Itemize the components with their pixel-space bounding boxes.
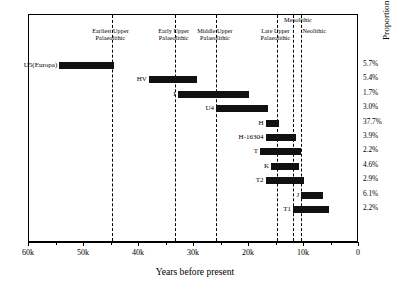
bar-row: HV [29,73,357,85]
x-tick-major [83,242,84,246]
bar-label: U5(Europa) [0,60,57,70]
bar-label: I [86,89,176,99]
bar-row: T [29,145,357,157]
bar-row: H [29,117,357,129]
x-tick-minor [111,242,112,245]
percent-label: 2.2% [363,145,378,154]
percent-label: 5.7% [363,59,378,68]
x-tick-major [138,242,139,246]
percent-label: 5.4% [363,73,378,82]
bar-label: T1 [201,204,291,214]
era-label-2: Middle Upper Palaeolithic [186,27,244,42]
x-tick-label: 60k [13,248,43,258]
percent-label: 37.7% [363,117,382,126]
bar-u5-europa- [59,62,114,69]
bar-label: H-16304 [174,132,264,142]
bars-layer: U5(Europa)HVIU4HH-16304TKT2JT1 [29,15,357,241]
x-tick-minor [276,242,277,245]
x-tick-label: 40k [123,248,153,258]
bar-t [260,148,301,155]
bar-label: K [179,161,269,171]
percent-label: 6.1% [363,189,378,198]
percent-label: 4.6% [363,160,378,169]
x-tick-label: 10k [288,248,318,258]
x-tick-major [248,242,249,246]
chart-container: U5(Europa)HVIU4HH-16304TKT2JT1 Earliest … [0,0,411,292]
bar-k [271,163,299,170]
era-label-5: Neolithic [294,27,334,34]
x-tick-label: 0 [343,248,373,258]
y-axis-title: Proportion of European lineages today [381,0,395,40]
x-tick-major [358,242,359,246]
x-tick-minor [221,242,222,245]
x-tick-major [193,242,194,246]
x-tick-label: 30k [178,248,208,258]
bar-row: J [29,189,357,201]
bar-u4 [216,105,268,112]
y-axis-title-text: Proportion of European lineages today [381,0,391,40]
bar-row: U5(Europa) [29,59,357,71]
bar-h [266,120,280,127]
bar-t2 [266,177,305,184]
x-tick-major [303,242,304,246]
bar-label: U4 [124,103,214,113]
bar-row: T1 [29,203,357,215]
bar-hv [149,76,197,83]
bar-row: U4 [29,102,357,114]
x-tick-minor [166,242,167,245]
bar-j [301,192,323,199]
bar-label: H [174,118,264,128]
bar-label: HV [57,74,147,84]
bar-row: K [29,160,357,172]
era-label-3: Late Upper Palaeolithic [252,27,300,42]
bar-i [178,91,250,98]
bar-t1 [293,206,329,213]
bar-label: J [209,190,299,200]
era-label-4: Mesolithic [276,16,320,23]
x-axis-title: Years before present [0,266,390,277]
percent-label: 2.9% [363,174,378,183]
percent-label: 3.9% [363,131,378,140]
x-tick-major [28,242,29,246]
bar-row: I [29,88,357,100]
x-tick-label: 50k [68,248,98,258]
percent-label: 3.0% [363,102,378,111]
bar-row: H-16304 [29,131,357,143]
era-label-0: Earliest Upper Palaeolithic [83,27,139,42]
percent-label: 1.7% [363,88,378,97]
bar-h-16304 [266,134,296,141]
x-tick-label: 20k [233,248,263,258]
plot-area: U5(Europa)HVIU4HH-16304TKT2JT1 [28,14,358,242]
percent-label: 2.2% [363,203,378,212]
x-tick-minor [331,242,332,245]
bar-label: T [168,146,258,156]
bar-label: T2 [174,175,264,185]
bar-row: T2 [29,174,357,186]
x-tick-minor [56,242,57,245]
